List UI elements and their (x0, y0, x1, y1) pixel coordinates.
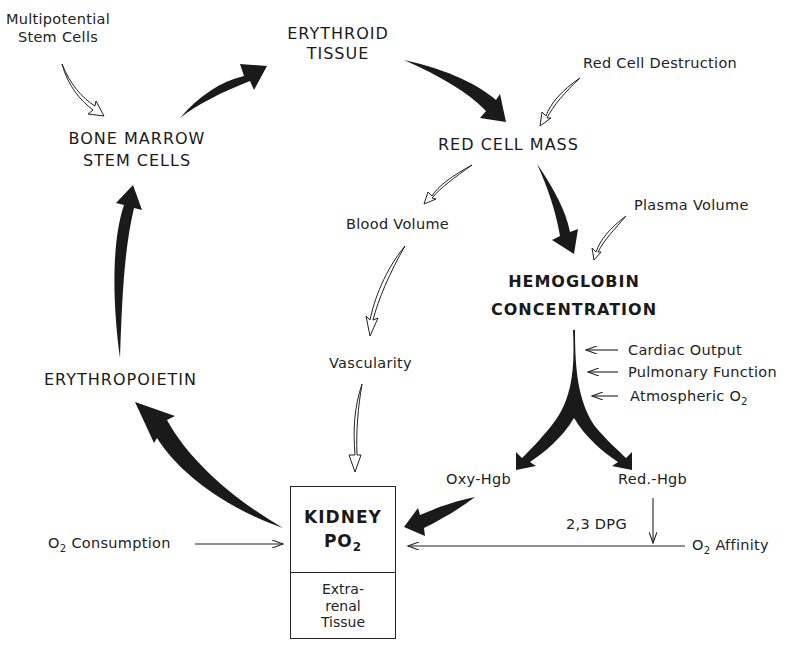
label-o2-affinity: O2 Affinity (692, 536, 769, 554)
label-erythropoietin: ERYTHROPOIETIN (44, 370, 197, 390)
label-line: Stem Cells (4, 28, 112, 46)
label-hemoglobin-concentration: HEMOGLOBIN CONCENTRATION (484, 268, 664, 324)
hollow-arrow-plasmavolume (592, 216, 626, 260)
hollow-arrow-vascularity-to-kidney (349, 384, 362, 472)
label-pulmonary-function: Pulmonary Function (628, 363, 777, 381)
arrow-bonemarrow-to-erythroid (180, 64, 267, 118)
arrow-oxyhgb-to-kidney (404, 497, 475, 536)
label-line: HEMOGLOBIN (484, 268, 664, 296)
po2-label: PO2 (324, 530, 362, 554)
label-line: ERYTHROID (268, 24, 408, 44)
label-plasma-volume: Plasma Volume (634, 196, 749, 214)
arrow-erythroid-to-redcellmass (404, 60, 506, 122)
label-blood-volume: Blood Volume (346, 215, 449, 233)
label-text: O (692, 537, 704, 553)
label-cardiac-output: Cardiac Output (628, 341, 742, 359)
hollow-arrow-bloodvolume-to-vascularity (366, 246, 405, 336)
label-bone-marrow-stem-cells: BONE MARROW STEM CELLS (52, 128, 222, 173)
kidney-po2-section: KIDNEY PO2 (291, 487, 395, 573)
label-oxy-hgb: Oxy-Hgb (446, 470, 511, 488)
hollow-arrow-redcelldestruction (540, 78, 580, 126)
hollow-arrow-multipotential (62, 64, 104, 116)
label-23-dpg: 2,3 DPG (566, 515, 627, 533)
label-text: PO (324, 531, 353, 551)
subscript: 2 (741, 396, 748, 407)
label-line: renal (325, 598, 360, 615)
label-vascularity: Vascularity (329, 354, 412, 372)
label-line: Multipotential (4, 10, 112, 28)
label-line: STEM CELLS (52, 150, 222, 172)
label-line: BONE MARROW (52, 128, 222, 150)
kidney-label: KIDNEY (304, 506, 382, 530)
label-line: TISSUE (268, 44, 408, 64)
label-erythroid-tissue: ERYTHROID TISSUE (268, 24, 408, 64)
label-red-hgb: Red.-Hgb (618, 470, 687, 488)
erythropoiesis-diagram: Multipotential Stem Cells ERYTHROID TISS… (0, 0, 795, 655)
label-line: Tissue (321, 614, 365, 631)
hollow-arrow-to-bloodvolume (424, 165, 472, 204)
arrows-layer (0, 0, 795, 655)
label-text: Atmospheric O (630, 388, 741, 404)
label-text: Affinity (710, 537, 768, 553)
label-text: Consumption (66, 535, 170, 551)
label-multipotential-stem-cells: Multipotential Stem Cells (4, 10, 112, 46)
kidney-box: KIDNEY PO2 Extra- renal Tissue (290, 486, 396, 639)
arrow-hemoglobin-split (516, 330, 632, 470)
label-red-cell-destruction: Red Cell Destruction (583, 54, 737, 72)
subscript: 2 (353, 540, 362, 554)
arrow-erythropoietin-to-bonemarrow (114, 185, 142, 358)
label-line: Extra- (322, 581, 364, 598)
arrow-redcellmass-to-hemoglobin (537, 164, 578, 254)
label-line: CONCENTRATION (484, 296, 664, 324)
label-o2-consumption: O2 Consumption (48, 534, 171, 552)
arrow-kidney-to-erythropoietin (135, 402, 283, 528)
label-red-cell-mass: RED CELL MASS (438, 135, 579, 155)
extrarenal-tissue-section: Extra- renal Tissue (291, 573, 395, 639)
label-atmospheric-o2: Atmospheric O2 (630, 387, 748, 405)
label-text: O (48, 535, 60, 551)
